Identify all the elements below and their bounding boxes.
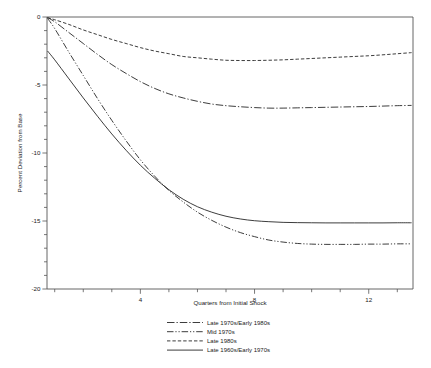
chart-background (0, 0, 431, 368)
y-tick-label: -20 (32, 285, 42, 292)
chart-figure: 4812 0-5-10-15-20 Quarters from Initial … (0, 0, 431, 368)
legend-label-2: Late 1980s (207, 338, 237, 344)
y-tick-label: -5 (35, 81, 41, 88)
y-tick-label: 0 (37, 13, 41, 20)
x-tick-label: 4 (139, 296, 143, 303)
legend-label-0: Late 1970s/Early 1980s (207, 320, 270, 326)
economic-impulse-response-chart: 4812 0-5-10-15-20 Quarters from Initial … (0, 0, 431, 368)
x-tick-label: 12 (365, 296, 372, 303)
x-axis-title: Quarters from Initial Shock (193, 299, 267, 306)
y-tick-label: -10 (32, 149, 42, 156)
y-axis-title: Percent Deviation from Base (16, 113, 23, 192)
y-tick-label: -15 (32, 217, 42, 224)
legend-label-1: Mid 1970s (207, 329, 235, 335)
legend-label-3: Late 1960s/Early 1970s (207, 347, 270, 353)
